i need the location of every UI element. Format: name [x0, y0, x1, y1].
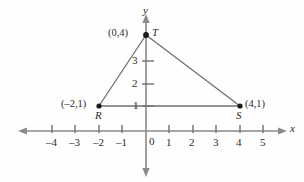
x-tick-label-4: 4 — [236, 137, 242, 148]
vertex-dots — [96, 32, 242, 109]
y-axis-bottom-arrow — [142, 168, 149, 177]
x-tick-label-1: 1 — [166, 137, 172, 148]
coordinate-plane-figure: –4 –3 –2 –1 1 2 3 4 5 0 1 2 3 x y (–2,1)… — [0, 0, 304, 182]
point-r-name: R — [95, 110, 102, 121]
x-tick-label-minus1: –1 — [116, 137, 127, 148]
y-axis-label: y — [143, 5, 148, 16]
point-s-name: S — [236, 110, 242, 121]
point-t-name: T — [152, 27, 158, 38]
point-r-dot — [96, 103, 101, 108]
x-tick-label-2: 2 — [189, 137, 195, 148]
x-tick-label-minus3: –3 — [69, 137, 80, 148]
point-t-dot — [143, 32, 149, 38]
x-axis-left-arrow — [18, 127, 27, 134]
segment-st — [146, 35, 240, 106]
origin-label: 0 — [149, 136, 155, 147]
x-axis-right-arrow — [278, 127, 287, 134]
x-tick-label-minus4: –4 — [46, 137, 57, 148]
x-tick-label-5: 5 — [260, 137, 266, 148]
point-t-coord-label: (0,4) — [108, 28, 128, 39]
x-axis-label: x — [290, 123, 295, 134]
triangle-rst — [99, 35, 240, 106]
y-tick-label-2: 2 — [132, 78, 138, 89]
x-axis — [18, 127, 287, 134]
point-s-dot — [237, 103, 242, 108]
x-tick-label-3: 3 — [213, 137, 219, 148]
point-r-coord-label: (–2,1) — [61, 99, 86, 110]
x-tick-label-minus2: –2 — [93, 137, 104, 148]
y-axis-ticks — [142, 61, 154, 106]
segment-tr — [99, 35, 146, 106]
point-s-coord-label: (4,1) — [245, 99, 265, 110]
y-tick-label-3: 3 — [132, 55, 138, 66]
y-tick-label-1: 1 — [133, 100, 139, 111]
